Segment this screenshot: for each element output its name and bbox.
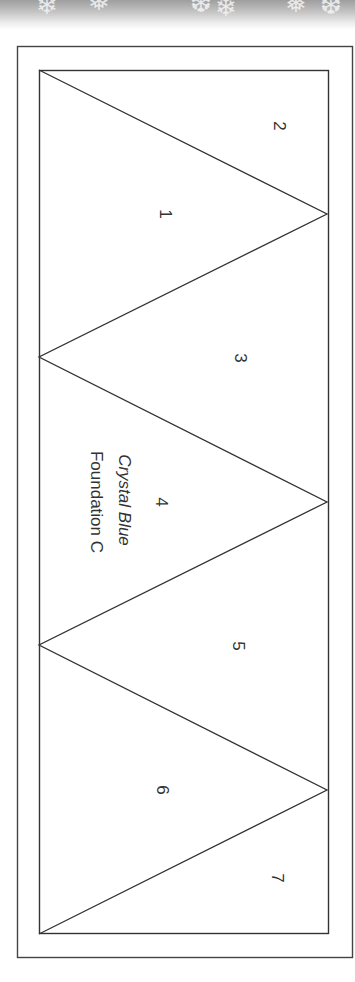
zigzag-seam-lines (39, 70, 327, 934)
section-label-6: 6 (154, 785, 171, 794)
inner-frame (40, 71, 329, 934)
section-label-2: 2 (271, 121, 288, 130)
section-label-4: 4 (153, 497, 170, 506)
section-label-5: 5 (230, 641, 247, 650)
outer-frame (18, 47, 353, 958)
section-label-1: 1 (157, 209, 174, 218)
section-label-3: 3 (232, 353, 249, 362)
fabric-name: Crystal Blue (116, 454, 133, 546)
section-label-7: 7 (269, 873, 286, 882)
foundation-label: Foundation C (88, 451, 105, 553)
foundation-pattern (0, 0, 355, 982)
